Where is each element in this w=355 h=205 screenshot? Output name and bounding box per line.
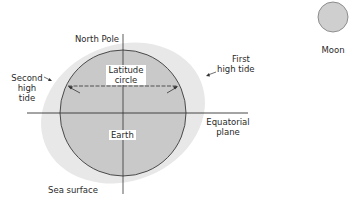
equatorial-plane-label: Equatorial plane [205, 117, 251, 137]
equatorial-plane-line2: plane [205, 127, 251, 137]
second-high-tide-line3: tide [8, 93, 46, 103]
moon-circle [318, 2, 348, 32]
latitude-circle-label-line1: Latitude [108, 65, 144, 75]
first-high-tide-line2: high tide [217, 64, 255, 74]
sea-surface-label: Sea surface [48, 185, 98, 195]
first-high-tide-pointer-icon [206, 72, 216, 77]
north-pole-label: North Pole [75, 34, 119, 44]
second-high-tide-label: Second high tide [8, 73, 46, 103]
latitude-circle-label-line2: circle [108, 75, 144, 85]
equatorial-plane-line1: Equatorial [205, 117, 251, 127]
earth-label: Earth [109, 130, 136, 140]
second-high-tide-line2: high [8, 83, 46, 93]
moon-label: Moon [316, 45, 350, 55]
first-high-tide-label: First high tide [217, 54, 255, 74]
latitude-circle-label: Latitude circle [106, 65, 146, 85]
first-high-tide-line1: First [217, 54, 255, 64]
tide-diagram [0, 0, 355, 205]
second-high-tide-line1: Second [8, 73, 46, 83]
